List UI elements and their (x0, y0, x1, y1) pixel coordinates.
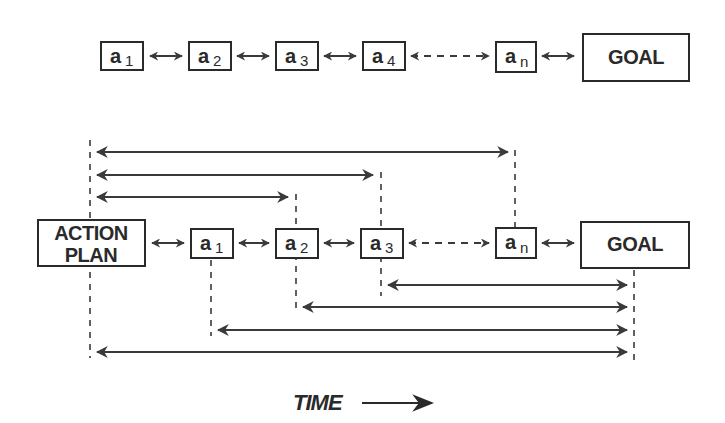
top-goal-box: GOAL (583, 34, 689, 81)
action-letter: a (505, 231, 517, 253)
top-action-a3: a 3 (276, 42, 318, 70)
top-action-a1: a 1 (101, 42, 143, 70)
top-action-an: a n (496, 42, 536, 72)
action-letter: a (285, 45, 297, 67)
top-action-a2: a 2 (189, 42, 231, 70)
action-letter: a (110, 45, 122, 67)
goal-label: GOAL (608, 46, 664, 68)
planning-horizon-arrows (97, 152, 508, 197)
time-label: TIME (293, 390, 344, 415)
bottom-goal-box: GOAL (581, 222, 689, 268)
plan-label-line1: ACTION (54, 222, 128, 244)
diagram-canvas: a 1 a 2 a 3 a 4 a n GOAL (0, 0, 725, 423)
top-sequence: a 1 a 2 a 3 a 4 a n GOAL (101, 34, 689, 81)
action-subscript: 1 (125, 52, 133, 69)
action-subscript: 3 (300, 52, 308, 69)
goal-label: GOAL (607, 233, 663, 255)
bottom-action-a2: a 2 (276, 229, 318, 258)
bottom-action-a1: a 1 (191, 229, 233, 258)
plan-label-line2: PLAN (65, 244, 118, 266)
action-letter: a (200, 232, 212, 254)
goal-horizon-arrows (97, 285, 627, 352)
action-letter: a (285, 232, 297, 254)
action-plan-box: ACTION PLAN (38, 220, 145, 266)
action-letter: a (370, 232, 382, 254)
action-subscript: 4 (387, 52, 395, 69)
action-letter: a (505, 45, 517, 67)
action-subscript: 3 (385, 239, 393, 256)
action-subscript: n (520, 53, 528, 70)
top-action-a4: a 4 (363, 42, 405, 70)
action-subscript: 1 (215, 239, 223, 256)
action-subscript: 2 (300, 239, 308, 256)
bottom-action-a3: a 3 (361, 229, 403, 258)
action-subscript: 2 (213, 52, 221, 69)
action-letter: a (372, 45, 384, 67)
action-subscript: n (520, 239, 528, 256)
bottom-sequence: ACTION PLAN a 1 a 2 a 3 a n (38, 220, 689, 268)
time-axis: TIME (293, 390, 432, 415)
bottom-action-an: a n (496, 228, 536, 258)
action-letter: a (198, 45, 210, 67)
